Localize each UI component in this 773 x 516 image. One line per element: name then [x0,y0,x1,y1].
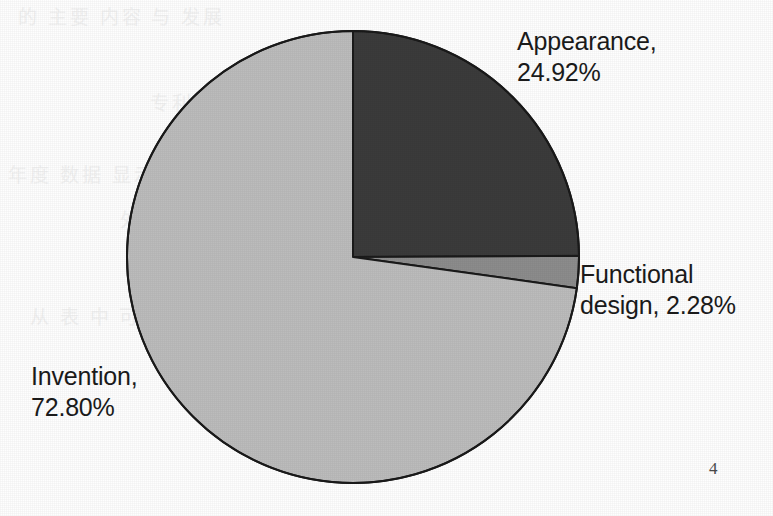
pie-chart-svg [0,0,773,516]
pie-chart: Appearance, 24.92% Functional design, 2.… [0,0,773,516]
slice-label-invention: Invention, 72.80% [31,361,137,423]
slice-label-appearance: Appearance, 24.92% [517,26,657,88]
figure-page: 的 主要 内容 与 发展 专利 申请 量 统计 分析 表 年度 数据 显示 发明… [0,0,773,516]
slice-label-functional: Functional design, 2.28% [580,259,736,321]
page-number: 4 [709,459,718,479]
